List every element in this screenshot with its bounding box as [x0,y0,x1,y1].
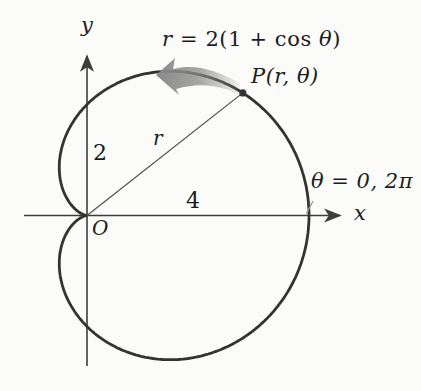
direction-arrow-icon [156,58,240,95]
equation-label: r = 2(1 + cos θ) [162,29,341,50]
figure-canvas [0,0,421,391]
y-axis-label: y [81,15,93,36]
point-p-label: P(r, θ) [251,66,319,87]
origin-label: O [92,218,108,238]
radius-label: r [153,128,163,148]
equation-mid: = 2(1 + cos [173,27,319,51]
radius-line [87,93,243,216]
y-segment-label: 2 [93,142,107,164]
theta-annotation-label: θ = 0, 2π [311,171,413,192]
x-segment-label: 4 [186,190,200,212]
equation-theta: θ [319,27,332,51]
point-p-dot [239,89,246,96]
cardioid-figure: y r = 2(1 + cos θ) P(r, θ) r 2 4 θ = 0, … [0,0,421,391]
x-axis-label: x [354,203,366,224]
equation-lhs: r [162,27,173,51]
equation-close: ) [332,27,341,51]
